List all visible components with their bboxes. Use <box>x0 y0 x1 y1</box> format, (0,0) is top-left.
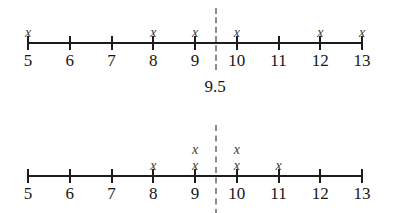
axis-tick-label-6: 6 <box>55 185 85 202</box>
data-marker-12-1: x <box>308 26 332 40</box>
axis-tick-label-5: 5 <box>13 52 43 69</box>
data-marker-8-1: x <box>141 159 165 173</box>
axis-tick-6 <box>69 36 71 50</box>
axis-tick-label-11: 11 <box>264 185 294 202</box>
axis-tick-label-10: 10 <box>222 185 252 202</box>
axis-tick-label-7: 7 <box>97 185 127 202</box>
data-marker-8-1: x <box>141 26 165 40</box>
bottom-dot-plot: 5678x9xx10xx11x1213 <box>0 105 398 213</box>
axis-tick-label-13: 13 <box>347 52 377 69</box>
axis-tick-label-12: 12 <box>305 52 335 69</box>
data-marker-9-1: x <box>183 159 207 173</box>
data-marker-13-1: x <box>350 26 374 40</box>
axis-tick-label-6: 6 <box>55 52 85 69</box>
axis-tick-label-9: 9 <box>180 52 210 69</box>
axis-tick-label-12: 12 <box>305 185 335 202</box>
axis-tick-12 <box>319 169 321 183</box>
axis-tick-11 <box>278 36 280 50</box>
data-marker-9-1: x <box>183 26 207 40</box>
data-marker-11-1: x <box>267 159 291 173</box>
axis-tick-label-8: 8 <box>138 185 168 202</box>
top-divider-line-9point5 <box>215 8 217 70</box>
bottom-divider-line-9point5 <box>215 125 217 213</box>
dot-plot-figure: 9.5 5x678x9x10x1112x13x 5678x9xx10xx11x1… <box>0 0 398 213</box>
axis-tick-label-9: 9 <box>180 185 210 202</box>
data-marker-5-1: x <box>16 26 40 40</box>
axis-tick-13 <box>361 169 363 183</box>
axis-tick-7 <box>111 169 113 183</box>
divider-label-9point5: 9.5 <box>185 78 245 95</box>
data-marker-10-1: x <box>225 159 249 173</box>
data-marker-10-2: x <box>225 143 249 157</box>
axis-tick-label-13: 13 <box>347 185 377 202</box>
axis-tick-6 <box>69 169 71 183</box>
axis-tick-label-10: 10 <box>222 52 252 69</box>
data-marker-9-2: x <box>183 143 207 157</box>
axis-tick-label-11: 11 <box>264 52 294 69</box>
axis-tick-label-7: 7 <box>97 52 127 69</box>
axis-tick-label-5: 5 <box>13 185 43 202</box>
axis-tick-7 <box>111 36 113 50</box>
axis-tick-label-8: 8 <box>138 52 168 69</box>
top-dot-plot: 9.5 5x678x9x10x1112x13x <box>0 0 398 105</box>
axis-tick-5 <box>27 169 29 183</box>
data-marker-10-1: x <box>225 26 249 40</box>
